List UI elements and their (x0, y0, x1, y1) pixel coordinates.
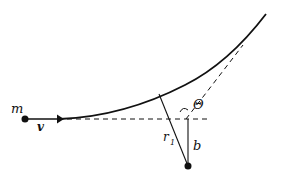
angle-label: Θ (193, 97, 204, 112)
mass-point (22, 116, 29, 123)
angle-arc (180, 108, 188, 112)
r1-subscript: 1 (170, 138, 175, 147)
r1-label: r (163, 130, 170, 144)
mass-label: m (11, 101, 23, 116)
velocity-label: v (37, 120, 45, 134)
scattering-diagram: m v Θ r 1 b (0, 0, 283, 182)
b-label: b (193, 138, 201, 153)
force-center (185, 163, 192, 170)
